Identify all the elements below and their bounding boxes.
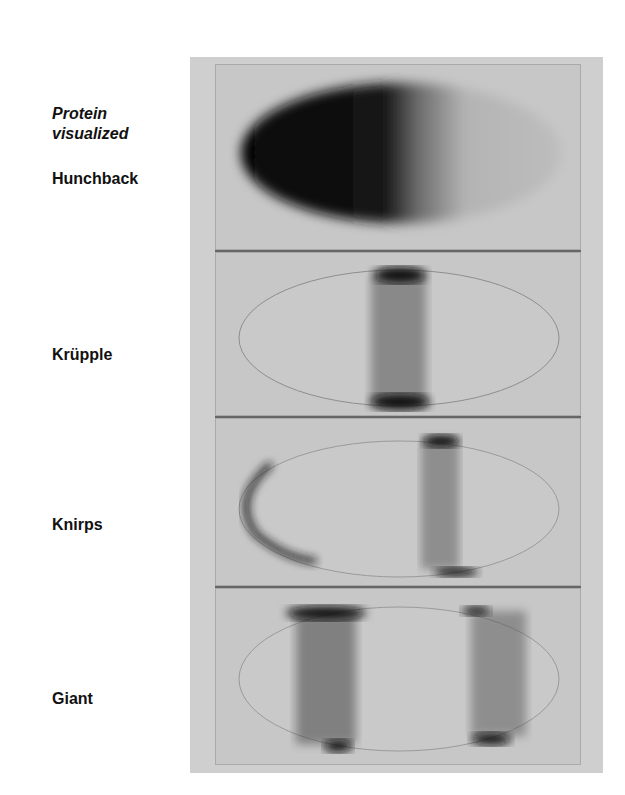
header-line-1: Protein	[52, 104, 128, 124]
embryo-knirps-image	[216, 419, 581, 586]
embryo-panel-kruppel	[215, 252, 581, 416]
embryo-panel-knirps	[215, 418, 581, 586]
embryo-panel-giant	[215, 588, 581, 765]
figure-frame	[190, 57, 603, 773]
label-knirps: Knirps	[52, 516, 103, 534]
embryo-kruppel-image	[216, 253, 581, 416]
column-header: Protein visualized	[52, 104, 128, 144]
label-giant: Giant	[52, 690, 93, 708]
label-kruppel: Krüpple	[52, 346, 112, 364]
header-line-2: visualized	[52, 124, 128, 144]
embryo-panel-hunchback	[215, 64, 581, 250]
embryo-giant-image	[216, 589, 581, 765]
label-hunchback: Hunchback	[52, 170, 138, 188]
embryo-hunchback-image	[216, 65, 581, 250]
